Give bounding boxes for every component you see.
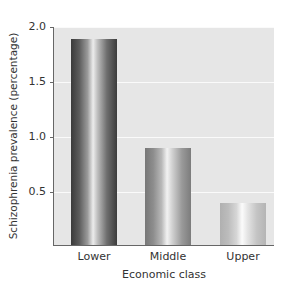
x-axis-line xyxy=(53,245,274,246)
bar-lower xyxy=(71,39,117,245)
y-tick-label: 1.5 xyxy=(20,76,46,88)
bar-upper xyxy=(220,203,266,245)
x-axis-title: Economic class xyxy=(104,268,224,281)
gridline xyxy=(54,27,274,28)
y-axis-title: Schizophrenia prevalence (percentage) xyxy=(7,26,21,246)
y-tick-label: 2.0 xyxy=(20,21,46,33)
x-category-label: Upper xyxy=(208,250,278,263)
bar-chart: 2.01.51.00.5 LowerMiddleUpper Economic c… xyxy=(0,0,292,288)
y-tick-label: 1.0 xyxy=(20,131,46,143)
x-category-label: Lower xyxy=(59,250,129,263)
x-category-label: Middle xyxy=(133,250,203,263)
y-axis-line xyxy=(53,27,54,246)
y-tick-label: 0.5 xyxy=(20,186,46,198)
bar-middle xyxy=(145,148,191,245)
